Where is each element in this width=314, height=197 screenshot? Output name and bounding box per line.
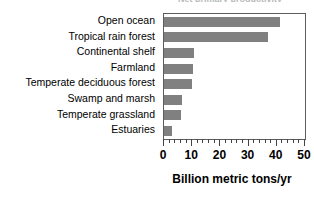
- x-axis-tick-marks: [163, 139, 305, 146]
- bar: [164, 17, 280, 27]
- minor-tick: [270, 139, 271, 143]
- bar-row: [164, 30, 305, 46]
- major-tick: [248, 139, 249, 146]
- minor-tick: [242, 139, 243, 143]
- minor-tick: [214, 139, 215, 143]
- major-tick: [191, 139, 192, 146]
- minor-tick: [225, 139, 226, 143]
- category-label: Temperate grassland: [0, 107, 160, 123]
- category-label: Swamp and marsh: [0, 91, 160, 107]
- major-tick: [163, 139, 164, 146]
- bar-row: [164, 76, 305, 92]
- minor-tick: [208, 139, 209, 143]
- minor-tick: [281, 139, 282, 143]
- bar-row: [164, 61, 305, 77]
- major-tick: [276, 139, 277, 146]
- minor-tick: [298, 139, 299, 143]
- category-label: Temperate deciduous forest: [0, 75, 160, 91]
- minor-tick: [236, 139, 237, 143]
- x-tick-label: 50: [297, 148, 310, 162]
- x-axis-title: Billion metric tons/yr: [150, 172, 314, 186]
- bar-row: [164, 14, 305, 30]
- bar-row: [164, 108, 305, 124]
- minor-tick: [186, 139, 187, 143]
- x-tick-label: 10: [185, 148, 198, 162]
- minor-tick: [169, 139, 170, 143]
- minor-tick: [293, 139, 294, 143]
- minor-tick: [259, 139, 260, 143]
- bar: [164, 32, 268, 42]
- minor-tick: [265, 139, 266, 143]
- bar: [164, 64, 193, 74]
- bar-row: [164, 45, 305, 61]
- plot-area: [163, 13, 306, 140]
- x-tick-label: 40: [269, 148, 282, 162]
- x-axis-tick-labels: 01020304050: [163, 148, 304, 164]
- x-tick-label: 0: [160, 148, 167, 162]
- minor-tick: [231, 139, 232, 143]
- category-label: Continental shelf: [0, 44, 160, 60]
- major-tick: [219, 139, 220, 146]
- bar-chart-figure: Net primary productivity Open ocean Trop…: [0, 0, 314, 197]
- minor-tick: [180, 139, 181, 143]
- bar: [164, 95, 182, 105]
- category-label: Estuaries: [0, 122, 160, 138]
- clipped-title-text: Net primary productivity: [150, 0, 310, 2]
- minor-tick: [287, 139, 288, 143]
- major-tick: [304, 139, 305, 146]
- minor-tick: [174, 139, 175, 143]
- bar: [164, 48, 194, 58]
- bars-layer: [164, 14, 305, 139]
- bar-row: [164, 92, 305, 108]
- bar: [164, 79, 192, 89]
- category-axis-labels: Open ocean Tropical rain forest Continen…: [0, 13, 160, 138]
- category-label: Farmland: [0, 60, 160, 76]
- bar: [164, 126, 172, 136]
- category-label: Tropical rain forest: [0, 29, 160, 45]
- minor-tick: [202, 139, 203, 143]
- x-tick-label: 20: [213, 148, 226, 162]
- bar: [164, 110, 181, 120]
- category-label: Open ocean: [0, 13, 160, 29]
- minor-tick: [253, 139, 254, 143]
- x-tick-label: 30: [241, 148, 254, 162]
- bar-row: [164, 123, 305, 139]
- minor-tick: [197, 139, 198, 143]
